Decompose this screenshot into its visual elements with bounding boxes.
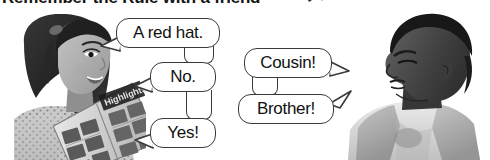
bubble-connector-cousin-to-brother [252,76,278,96]
boy-profile-photo [346,8,490,160]
speech-bubble-cousin: Cousin! [244,48,332,78]
speech-bubble-yes: Yes! [150,118,216,148]
speech-bubble-brother: Brother! [238,94,334,124]
speech-bubble-text: A red hat. [133,23,203,44]
speech-bubble-no: No. [150,62,216,92]
arrow-pointer-icon [306,0,332,7]
speech-bubble-text: Brother! [257,99,315,120]
worksheet-panel: Remember the Rule with a friend [0,0,490,160]
page-heading: Remember the Rule with a friend [2,0,260,8]
bubble-connector-no-to-yes [186,90,212,120]
speech-bubble-text: Cousin! [260,53,316,74]
speech-bubble-a-red-hat: A red hat. [116,18,220,48]
speech-bubble-text: Yes! [167,123,198,144]
speech-bubble-text: No. [170,67,196,88]
